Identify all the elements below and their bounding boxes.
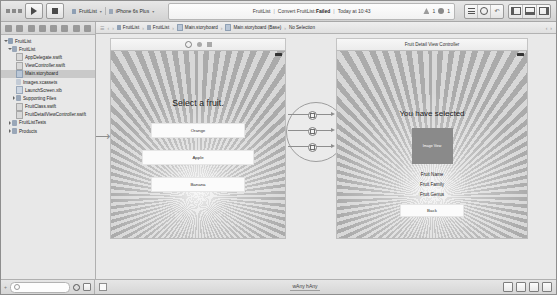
navigator-tab-bar[interactable] [1, 22, 95, 35]
find-navigator-tab[interactable] [28, 25, 35, 32]
filter-recent-icon[interactable] [73, 284, 80, 291]
apple-button[interactable]: Apple [142, 150, 254, 165]
debug-navigator-tab[interactable] [61, 25, 68, 32]
editor-mode-group[interactable]: ↶ [464, 4, 504, 19]
pin-button[interactable] [516, 282, 526, 292]
swift-file-icon [16, 111, 23, 119]
navigator-row[interactable]: ViewController.swift [1, 62, 95, 70]
navigator-row[interactable]: FruitListTests [1, 119, 95, 127]
fruit-family-label: Fruit Family [420, 182, 444, 187]
debug-panel-icon [525, 7, 535, 15]
issue-counters[interactable]: 1 1 [423, 8, 450, 14]
view-controller-canvas-left[interactable]: Select a fruit. Orange Apple Banana [110, 50, 286, 239]
breadcrumb-item[interactable]: FruitList [153, 25, 169, 30]
zoom-controls[interactable] [99, 283, 107, 291]
resolve-issues-button[interactable] [529, 282, 539, 292]
traffic-lights[interactable] [6, 9, 22, 13]
banana-button[interactable]: Banana [151, 177, 245, 192]
add-item-icon[interactable]: + [4, 284, 7, 290]
jump-bar-right[interactable]: ‹ › [546, 25, 552, 31]
segue-line-1[interactable] [288, 114, 310, 115]
scheme-selector[interactable]: FruitList ▾ iPhone 6s Plus ▾ [67, 4, 159, 18]
stop-button[interactable] [46, 3, 64, 19]
view-controller-canvas-right[interactable]: You have selected Image View Fruit Name … [336, 50, 528, 239]
navigator-row[interactable]: Products [1, 127, 95, 135]
segue-icon-1[interactable] [308, 111, 317, 120]
project-navigator-tab[interactable] [5, 25, 12, 32]
next-issue-icon[interactable]: › [550, 25, 552, 31]
debug-area-toggle-button[interactable] [523, 5, 537, 18]
report-navigator-tab[interactable] [84, 25, 91, 32]
navigator-panel-icon [511, 7, 521, 15]
version-editor-button[interactable]: ↶ [491, 5, 503, 18]
issue-navigator-tab[interactable] [39, 25, 46, 32]
jump-bar-nav[interactable]: ☰ ‹ › [100, 25, 114, 31]
orange-button[interactable]: Orange [151, 123, 245, 138]
run-button[interactable] [25, 3, 43, 19]
navigator-row[interactable]: FruitList [1, 37, 95, 45]
forward-icon[interactable]: › [112, 25, 114, 31]
standard-editor-button[interactable] [465, 5, 478, 18]
segue-icon-3[interactable] [308, 143, 317, 152]
scene-dock-left[interactable] [110, 38, 286, 50]
embed-in-stack-button[interactable] [542, 282, 552, 292]
navigator-panel: FruitListFruitListAppDelegate.swiftViewC… [1, 22, 96, 279]
filter-source-control-icon[interactable] [83, 283, 91, 291]
triangle-glyph [4, 40, 8, 42]
fold-file-icon [12, 120, 17, 126]
zoom-fit-button[interactable] [99, 283, 107, 291]
jump-bar[interactable]: ☰ ‹ › FruitList›FruitList›Main.storyboar… [96, 22, 556, 34]
breadcrumb-item[interactable]: Main.storyboard (Base) [233, 25, 281, 30]
breadcrumb-item[interactable]: FruitList [123, 25, 139, 30]
breakpoint-navigator-tab[interactable] [73, 25, 80, 32]
breadcrumb-item[interactable]: No Selection [289, 25, 315, 30]
back-icon[interactable]: ‹ [107, 25, 109, 31]
breadcrumb-separator: › [142, 25, 144, 31]
toolbar: FruitList ▾ iPhone 6s Plus ▾ FruitList |… [1, 1, 556, 22]
test-navigator-tab[interactable] [50, 25, 57, 32]
navigator-row[interactable]: FruitClass.swift [1, 103, 95, 111]
first-responder-icon[interactable] [197, 42, 202, 47]
scene-dock-right[interactable]: Fruit Detail View Controller [336, 38, 528, 50]
segue-line-3[interactable] [288, 146, 310, 147]
symbol-navigator-tab[interactable] [16, 25, 23, 32]
navigator-toggle-button[interactable] [509, 5, 523, 18]
canvas-bottom-bar: wAny hAny [95, 280, 556, 294]
scheme-chevron-icon: ▾ [100, 9, 102, 14]
navigator-row[interactable]: AppDelegate.swift [1, 53, 95, 61]
you-have-selected-label: You have selected [399, 109, 464, 118]
project-navigator-tree[interactable]: FruitListFruitListAppDelegate.swiftViewC… [1, 35, 95, 279]
align-button[interactable] [503, 282, 513, 292]
navigator-row[interactable]: Main.storyboard [1, 70, 95, 78]
image-view[interactable]: Image View [412, 128, 453, 164]
utilities-toggle-button[interactable] [537, 5, 550, 18]
panel-toggle-group[interactable] [508, 4, 551, 19]
assistant-editor-button[interactable] [478, 5, 491, 18]
navigator-row-label: Supporting Files [23, 96, 56, 101]
navigator-row-label: Main.storyboard [25, 71, 58, 76]
navigator-row[interactable]: FruitDetailViewController.swift [1, 111, 95, 119]
navigator-row-label: FruitList [15, 39, 31, 44]
warning-icon [423, 8, 429, 14]
segue-icon-2[interactable] [308, 127, 317, 136]
fruit-genus-label: Fruit Genus [420, 192, 444, 197]
previous-issue-icon[interactable]: ‹ [546, 25, 548, 31]
view-controller-icon[interactable] [185, 41, 192, 48]
exit-icon[interactable] [207, 42, 212, 47]
back-button[interactable]: Back [400, 204, 464, 217]
navigator-row[interactable]: FruitList [1, 45, 95, 53]
filter-input[interactable] [10, 282, 70, 293]
navigator-row[interactable]: Supporting Files [1, 94, 95, 102]
breadcrumb-item[interactable]: Main.storyboard [185, 25, 218, 30]
breadcrumb-icon [177, 24, 183, 31]
navigator-row[interactable]: Images.xcassets [1, 78, 95, 86]
scene-fruit-detail[interactable]: Fruit Detail View Controller You have se… [336, 38, 528, 239]
navigator-row[interactable]: LaunchScreen.xib [1, 86, 95, 94]
segue-line-2[interactable] [288, 130, 310, 131]
interface-builder-canvas[interactable]: ⟶ Select a fruit. Orange [96, 34, 556, 279]
related-items-icon[interactable]: ☰ [100, 25, 104, 31]
ib-tool-buttons[interactable] [503, 282, 552, 292]
breadcrumb[interactable]: FruitList›FruitList›Main.storyboard›Main… [117, 24, 315, 31]
size-class-control[interactable]: wAny hAny [290, 283, 319, 291]
scene-fruit-list[interactable]: Select a fruit. Orange Apple Banana [110, 38, 286, 239]
